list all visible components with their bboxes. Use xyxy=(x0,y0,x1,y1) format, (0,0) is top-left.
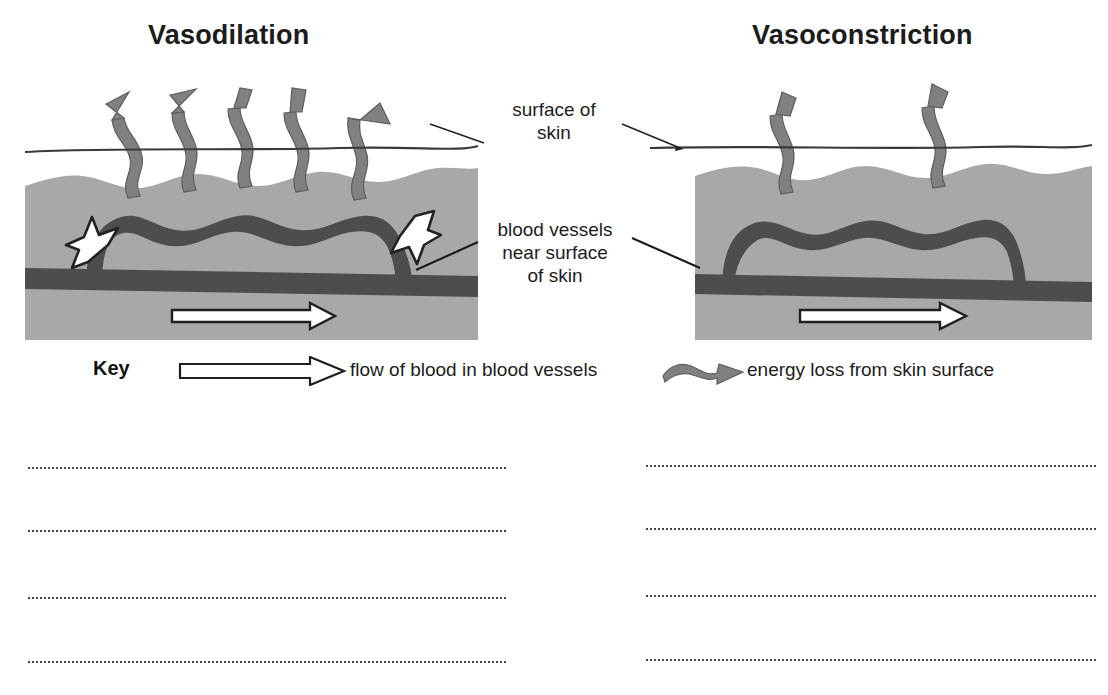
hollow-right-arrow-icon xyxy=(178,356,348,386)
surface-of-skin-line-right xyxy=(650,145,1092,148)
label-surface-of-skin-line2: skin xyxy=(489,121,619,144)
label-surface-of-skin: surface of skin xyxy=(489,98,619,144)
wavy-energy-arrow-icon xyxy=(661,354,747,388)
answer-line-left-3[interactable] xyxy=(28,597,506,599)
label-surface-of-skin-line1: surface of xyxy=(489,98,619,121)
answer-line-right-1[interactable] xyxy=(646,465,1096,467)
answer-line-right-3[interactable] xyxy=(646,595,1096,597)
answer-line-left-4[interactable] xyxy=(28,661,506,663)
label-blood-vessels-line2: near surface xyxy=(480,241,630,264)
key-energy-label: energy loss from skin surface xyxy=(747,359,994,381)
label-blood-vessels-near-surface: blood vessels near surface of skin xyxy=(480,218,630,287)
answer-line-left-2[interactable] xyxy=(28,530,506,532)
label-blood-vessels-line3: of skin xyxy=(480,264,630,287)
key-heading: Key xyxy=(93,357,130,380)
answer-line-right-4[interactable] xyxy=(646,659,1096,661)
diagram-page: Vasodilation Vasoconstriction xyxy=(0,0,1108,695)
label-blood-vessels-line1: blood vessels xyxy=(480,218,630,241)
key-flow-label: flow of blood in blood vessels xyxy=(350,359,597,381)
answer-line-left-1[interactable] xyxy=(28,467,506,469)
answer-line-right-2[interactable] xyxy=(646,528,1096,530)
